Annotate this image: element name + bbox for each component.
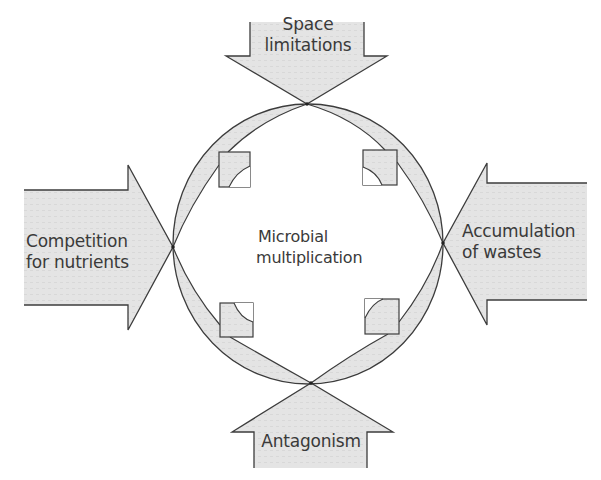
label-antagonism: Antagonism	[252, 431, 370, 452]
label-line: Microbial	[256, 226, 362, 247]
node-right	[441, 241, 445, 245]
node-bottom	[309, 381, 313, 385]
label-line: limitations	[256, 35, 360, 56]
label-line: for nutrients	[26, 252, 129, 273]
label-line: Accumulation	[462, 221, 575, 242]
label-line: of wastes	[462, 242, 575, 263]
label-line: Space	[256, 14, 360, 35]
label-line: multiplication	[256, 247, 362, 268]
label-microbial-multiplication: Microbial multiplication	[256, 226, 362, 268]
node-left	[171, 245, 175, 249]
node-top	[305, 102, 309, 106]
label-competition-for-nutrients: Competition for nutrients	[26, 231, 129, 273]
label-accumulation-of-wastes: Accumulation of wastes	[462, 221, 575, 263]
label-line: Antagonism	[252, 431, 370, 452]
label-line: Competition	[26, 231, 129, 252]
label-space-limitations: Space limitations	[256, 14, 360, 56]
box-bottom-left	[220, 303, 253, 337]
arrow-antagonism	[232, 383, 393, 468]
box-top-left	[219, 152, 250, 187]
box-bottom-right	[365, 299, 399, 334]
box-top-right	[363, 150, 397, 185]
